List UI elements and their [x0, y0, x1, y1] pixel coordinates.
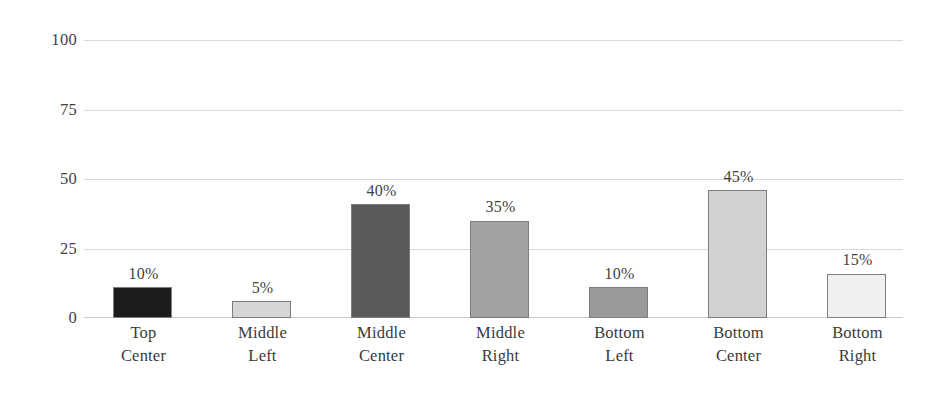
bar-label-bottom-center: 45%	[679, 169, 798, 185]
x-category-line-2: Center	[322, 345, 441, 368]
x-category-bottom-right: Bottom Right	[798, 322, 917, 368]
bar-slot-bottom-right: 15%	[798, 40, 917, 318]
x-category-line-2: Left	[203, 345, 322, 368]
bar-label-middle-center: 40%	[322, 183, 441, 199]
bar-middle-center[interactable]	[351, 204, 410, 318]
y-tick-label-100: 100	[5, 32, 77, 49]
bar-bottom-right[interactable]	[827, 274, 886, 319]
bar-bottom-left[interactable]	[589, 287, 648, 318]
x-category-middle-right: Middle Right	[441, 322, 560, 368]
x-category-top-center: Top Center	[84, 322, 203, 368]
x-category-line-1: Middle	[203, 322, 322, 345]
bar-middle-right[interactable]	[470, 221, 529, 318]
bar-slot-top-center: 10%	[84, 40, 203, 318]
bar-series: 10% 5% 40% 35% 10% 45% 15%	[84, 40, 903, 318]
bar-bottom-center[interactable]	[708, 190, 767, 318]
bar-label-bottom-left: 10%	[560, 266, 679, 282]
x-category-line-1: Top	[84, 322, 203, 345]
bar-slot-middle-center: 40%	[322, 40, 441, 318]
y-tick-label-0: 0	[5, 310, 77, 327]
x-category-line-2: Center	[84, 345, 203, 368]
bar-middle-left[interactable]	[232, 301, 291, 318]
x-category-line-1: Bottom	[798, 322, 917, 345]
x-category-line-2: Right	[441, 345, 560, 368]
bar-label-bottom-right: 15%	[798, 252, 917, 268]
x-category-bottom-center: Bottom Center	[679, 322, 798, 368]
bar-label-middle-right: 35%	[441, 199, 560, 215]
x-category-line-2: Center	[679, 345, 798, 368]
bar-slot-middle-left: 5%	[203, 40, 322, 318]
y-tick-label-25: 25	[5, 241, 77, 258]
y-tick-label-75: 75	[5, 102, 77, 119]
x-category-bottom-left: Bottom Left	[560, 322, 679, 368]
x-category-line-1: Bottom	[679, 322, 798, 345]
bar-chart: 100 75 50 25 0 10% 5% 40% 35% 10% 4	[0, 0, 950, 401]
x-category-line-1: Bottom	[560, 322, 679, 345]
x-category-line-2: Right	[798, 345, 917, 368]
bar-slot-middle-right: 35%	[441, 40, 560, 318]
bar-top-center[interactable]	[113, 287, 172, 318]
x-axis: Top Center Middle Left Middle Center Mid…	[84, 322, 903, 396]
x-category-line-2: Left	[560, 345, 679, 368]
x-category-line-1: Middle	[322, 322, 441, 345]
x-category-middle-left: Middle Left	[203, 322, 322, 368]
y-tick-label-50: 50	[5, 171, 77, 188]
bar-label-top-center: 10%	[84, 266, 203, 282]
bar-slot-bottom-center: 45%	[679, 40, 798, 318]
x-category-middle-center: Middle Center	[322, 322, 441, 368]
bar-slot-bottom-left: 10%	[560, 40, 679, 318]
bar-label-middle-left: 5%	[203, 280, 322, 296]
x-category-line-1: Middle	[441, 322, 560, 345]
